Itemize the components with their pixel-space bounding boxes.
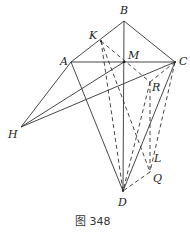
label-M: M: [127, 49, 140, 62]
edge-HC: [21, 62, 175, 127]
label-Q: Q: [153, 172, 162, 185]
edge-BD: [123, 21, 124, 191]
edge-RD: [123, 82, 150, 191]
label-K: K: [88, 29, 98, 42]
label-A: A: [59, 55, 68, 68]
edge-KQ: [101, 41, 150, 172]
label-H: H: [7, 128, 18, 141]
point-labels: B K A M C R H L Q D: [7, 4, 188, 209]
label-C: C: [179, 55, 188, 68]
dot-M: [123, 61, 126, 64]
label-B: B: [119, 4, 128, 17]
edge-AH: [21, 62, 71, 127]
point-dots: [100, 40, 176, 192]
edge-KD: [101, 41, 123, 191]
geometry-figure: B K A M C R H L Q D 图 348: [0, 0, 190, 236]
edge-HM: [21, 62, 124, 127]
dot-C: [174, 61, 176, 63]
dot-K: [100, 40, 102, 42]
dot-D: [122, 190, 124, 192]
figure-caption: 图 348: [75, 215, 111, 228]
label-D: D: [117, 196, 127, 209]
edge-AD: [71, 62, 123, 191]
edge-AB: [71, 21, 124, 62]
label-R: R: [151, 81, 160, 94]
edge-CD: [123, 62, 175, 191]
dashed-edges: [101, 41, 175, 191]
label-L: L: [153, 152, 161, 165]
